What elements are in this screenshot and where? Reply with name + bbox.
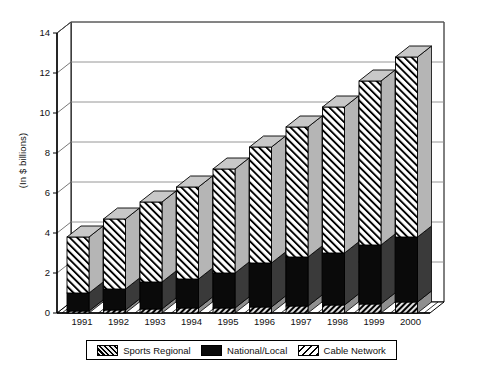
- bar-column: [323, 96, 359, 313]
- bar-column: [213, 158, 249, 313]
- legend-swatch-icon: [201, 345, 222, 356]
- x-axis-tick-label-1992: 1992: [102, 316, 136, 327]
- x-axis-tick-label-1998: 1998: [321, 316, 355, 327]
- x-axis-tick-label-1991: 1991: [65, 316, 99, 327]
- legend-label: Cable Network: [324, 345, 386, 356]
- chart-legend: Sports RegionalNational/LocalCable Netwo…: [86, 340, 397, 360]
- bar-column: [250, 136, 286, 313]
- bar-column: [396, 46, 432, 313]
- bar-column: [104, 208, 140, 313]
- x-axis-tick-label-1999: 1999: [357, 316, 391, 327]
- bar-column: [286, 116, 322, 313]
- x-axis-tick-labels: 1991199219931994199519961997199819992000: [0, 316, 481, 332]
- bar-column: [140, 191, 176, 313]
- legend-swatch-icon: [298, 345, 319, 356]
- x-axis-tick-label-1995: 1995: [211, 316, 245, 327]
- legend-swatch-icon: [97, 345, 118, 356]
- stacked-bar-chart: (In $ billions) 02468101214 199119921993…: [0, 0, 481, 379]
- x-axis-tick-label-1994: 1994: [175, 316, 209, 327]
- x-axis-tick-label-1993: 1993: [138, 316, 172, 327]
- x-axis-tick-label-1996: 1996: [248, 316, 282, 327]
- x-axis-tick-label-2000: 2000: [394, 316, 428, 327]
- x-axis-tick-label-1997: 1997: [284, 316, 318, 327]
- bar-column: [177, 176, 213, 313]
- legend-label: Sports Regional: [123, 345, 191, 356]
- legend-entry-0[interactable]: Sports Regional: [97, 345, 191, 356]
- bar-column: [359, 70, 395, 313]
- legend-entry-2[interactable]: Cable Network: [298, 345, 386, 356]
- legend-entry-1[interactable]: National/Local: [201, 345, 287, 356]
- legend-label: National/Local: [227, 345, 287, 356]
- bar-column: [67, 226, 103, 313]
